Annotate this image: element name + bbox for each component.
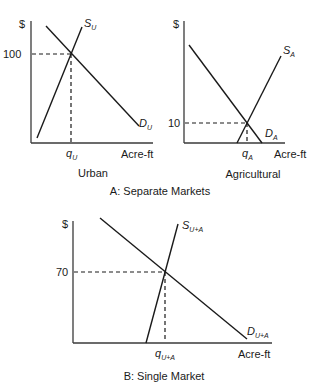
panel-a-caption: A: Separate Markets [110, 185, 211, 197]
single-demand-curve [100, 218, 247, 339]
urban-demand-curve [46, 26, 139, 126]
urban-quantity-tick: qU [66, 147, 78, 161]
single-demand-label: DU+A [247, 325, 269, 339]
agricultural-price-tick: 10 [168, 117, 180, 129]
urban-supply-curve [37, 27, 82, 138]
single-supply-curve [146, 224, 178, 343]
urban-price-tick: 100 [3, 48, 21, 60]
urban-supply-label: SU [84, 17, 97, 31]
agricultural-supply-curve [237, 56, 281, 143]
agricultural-quantity-tick: qA [242, 147, 253, 161]
agricultural-demand-label: DA [265, 127, 278, 141]
urban-subtitle: Urban [78, 167, 108, 179]
agricultural-chart: $ 10 SA DA qA Acre-ft Agricultural [168, 18, 306, 180]
single-y-axis-label: $ [62, 218, 68, 230]
agricultural-supply-label: SA [283, 44, 295, 58]
panel-b-caption: B: Single Market [124, 370, 205, 382]
single-market-chart: $ 70 SU+A DU+A qU+A Acre-ft [56, 218, 272, 361]
urban-x-axis-label: Acre-ft [121, 148, 153, 160]
single-quantity-tick: qU+A [155, 347, 175, 361]
single-supply-label: SU+A [182, 219, 203, 233]
agricultural-x-axis-label: Acre-ft [274, 148, 306, 160]
agricultural-subtitle: Agricultural [225, 168, 280, 180]
single-price-tick: 70 [56, 266, 68, 278]
agricultural-demand-curve [189, 45, 262, 143]
urban-y-axis-label: $ [19, 18, 25, 30]
water-market-diagram: $ 100 SU DU qU Acre-ft Urban $ 10 SA DA … [0, 0, 318, 391]
urban-demand-label: DU [139, 117, 153, 131]
agricultural-y-axis-label: $ [173, 18, 179, 30]
urban-chart: $ 100 SU DU qU Acre-ft Urban [3, 17, 153, 179]
single-x-axis-label: Acre-ft [238, 348, 270, 360]
